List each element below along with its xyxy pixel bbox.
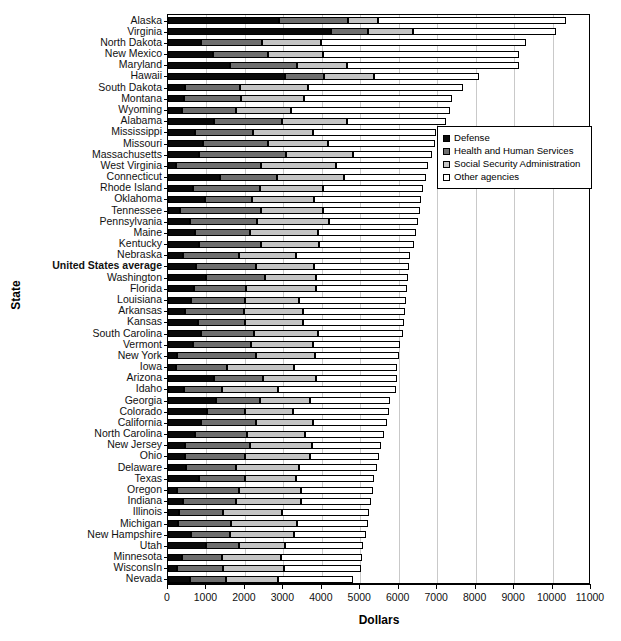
bar-row[interactable] [168, 565, 361, 572]
bar-segment-other-agencies [312, 442, 381, 449]
bar-row[interactable] [168, 207, 420, 214]
bar-row[interactable] [168, 352, 399, 359]
bar-row[interactable] [168, 397, 390, 404]
bar-segment-other-agencies [328, 140, 435, 147]
bar-row[interactable] [168, 531, 366, 538]
bar-row[interactable] [168, 431, 384, 438]
bar-row[interactable] [168, 107, 450, 114]
x-axis-tick [321, 584, 322, 589]
bar-row[interactable] [168, 408, 389, 415]
legend-item[interactable]: Defense [443, 132, 586, 144]
bar-row[interactable] [168, 297, 406, 304]
bar-row[interactable] [168, 73, 479, 80]
y-axis-label: Kentucky [20, 238, 162, 248]
bar-row[interactable] [168, 364, 397, 371]
bar-segment-defense [168, 464, 186, 471]
bar-segment-other-agencies [278, 386, 396, 393]
bar-row[interactable] [168, 51, 519, 58]
legend-item[interactable]: Health and Human Services [443, 145, 586, 157]
bar-row[interactable] [168, 196, 421, 203]
bar-row[interactable] [168, 62, 519, 69]
bar-row[interactable] [168, 375, 397, 382]
bar-row[interactable] [168, 118, 446, 125]
bar-row[interactable] [168, 185, 423, 192]
bar-segment-social-security-administration [239, 487, 301, 494]
bar-segment-social-security-administration [245, 297, 299, 304]
y-axis-label: Nevada [20, 573, 162, 583]
bar-row[interactable] [168, 218, 418, 225]
bar-row[interactable] [168, 263, 409, 270]
bar-segment-defense [168, 386, 184, 393]
bar-segment-health-and-human-services [184, 95, 241, 102]
bar-row[interactable] [168, 442, 381, 449]
bar-segment-defense [168, 263, 196, 270]
bar-row[interactable] [168, 252, 410, 259]
y-axis-label: Alabama [20, 115, 162, 125]
bar-segment-other-agencies [296, 475, 374, 482]
bar-row[interactable] [168, 95, 452, 102]
bar-segment-other-agencies [310, 397, 390, 404]
y-axis-label: Maryland [20, 59, 162, 69]
bar-row[interactable] [168, 285, 407, 292]
y-axis-tick [164, 512, 168, 513]
bar-row[interactable] [168, 576, 353, 583]
bar-segment-health-and-human-services [201, 419, 256, 426]
bar-row[interactable] [168, 542, 363, 549]
bar-row[interactable] [168, 487, 373, 494]
bar-row[interactable] [168, 509, 369, 516]
legend: DefenseHealth and Human ServicesSocial S… [437, 126, 592, 189]
bar-segment-health-and-human-services [203, 140, 268, 147]
bar-segment-defense [168, 431, 195, 438]
x-axis-tick [475, 584, 476, 589]
bar-row[interactable] [168, 39, 526, 46]
bar-row[interactable] [168, 475, 374, 482]
bar-segment-health-and-human-services [195, 229, 250, 236]
bar-row[interactable] [168, 140, 435, 147]
bar-row[interactable] [168, 151, 432, 158]
bar-row[interactable] [168, 520, 368, 527]
bar-row[interactable] [168, 28, 556, 35]
bar-segment-health-and-human-services [180, 207, 260, 214]
bar-row[interactable] [168, 498, 371, 505]
y-axis-tick [164, 378, 168, 379]
bar-row[interactable] [168, 241, 414, 248]
bar-segment-other-agencies [378, 17, 566, 24]
y-axis-label: Hawaii [20, 70, 162, 80]
bar-segment-health-and-human-services [216, 397, 259, 404]
bar-row[interactable] [168, 129, 436, 136]
y-axis-label: Alaska [20, 15, 162, 25]
bar-row[interactable] [168, 341, 400, 348]
bar-segment-social-security-administration [241, 95, 304, 102]
bar-row[interactable] [168, 554, 362, 561]
bar-segment-other-agencies [353, 151, 433, 158]
bar-row[interactable] [168, 84, 463, 91]
bar-row[interactable] [168, 386, 396, 393]
bar-segment-other-agencies [323, 51, 520, 58]
bar-row[interactable] [168, 229, 416, 236]
bar-segment-health-and-human-services [191, 297, 245, 304]
bar-row[interactable] [168, 330, 403, 337]
legend-swatch-icon [443, 174, 450, 181]
bar-segment-social-security-administration [236, 464, 299, 471]
bar-segment-other-agencies [303, 319, 404, 326]
legend-item-label: Defense [454, 132, 490, 144]
bar-row[interactable] [168, 453, 379, 460]
legend-item[interactable]: Social Security Administration [443, 158, 586, 170]
bar-row[interactable] [168, 308, 405, 315]
bar-segment-defense [168, 542, 206, 549]
y-axis-label: Oklahoma [20, 193, 162, 203]
bar-row[interactable] [168, 274, 408, 281]
bar-segment-defense [168, 520, 178, 527]
bar-row[interactable] [168, 464, 377, 471]
bar-row[interactable] [168, 319, 404, 326]
legend-item[interactable]: Other agencies [443, 171, 586, 183]
y-axis-tick [164, 278, 168, 279]
y-axis-tick [164, 490, 168, 491]
bar-row[interactable] [168, 162, 428, 169]
bar-segment-social-security-administration [268, 51, 323, 58]
bar-row[interactable] [168, 17, 566, 24]
bar-segment-other-agencies [316, 375, 397, 382]
bar-row[interactable] [168, 174, 426, 181]
bar-row[interactable] [168, 419, 387, 426]
bar-segment-health-and-human-services [182, 554, 222, 561]
